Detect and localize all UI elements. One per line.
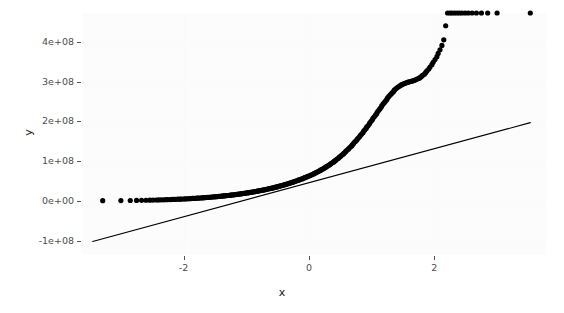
x-tick-label: -2 bbox=[154, 262, 214, 273]
x-tick-label: 0 bbox=[279, 262, 339, 273]
x-tick-mark bbox=[434, 256, 435, 260]
y-tick-label: 1e+08 bbox=[42, 156, 74, 166]
y-tick-label: -1e+08 bbox=[39, 236, 74, 246]
x-axis-title: x bbox=[0, 286, 564, 299]
y-tick-label: 4e+08 bbox=[42, 37, 74, 47]
y-tick-mark bbox=[77, 82, 81, 83]
y-tick-label: 3e+08 bbox=[42, 77, 74, 87]
scatter-point bbox=[474, 10, 479, 15]
qq-reference-line bbox=[93, 123, 531, 242]
qq-plot-figure: y -1e+080e+001e+082e+083e+084e+08 -202 x bbox=[0, 0, 564, 313]
scatter-point bbox=[485, 10, 490, 15]
scatter-point bbox=[441, 37, 446, 42]
scatter-point bbox=[134, 198, 139, 203]
y-tick-mark bbox=[77, 42, 81, 43]
y-tick-mark bbox=[77, 201, 81, 202]
scatter-point bbox=[439, 43, 444, 48]
y-tick-mark bbox=[77, 241, 81, 242]
y-tick-mark bbox=[77, 161, 81, 162]
scatter-point bbox=[118, 198, 123, 203]
scatter-points bbox=[100, 10, 533, 203]
x-tick-mark bbox=[309, 256, 310, 260]
scatter-point bbox=[494, 10, 499, 15]
x-tick-mark bbox=[184, 256, 185, 260]
scatter-point bbox=[479, 10, 484, 15]
y-tick-mark bbox=[77, 121, 81, 122]
x-tick-label: 2 bbox=[404, 262, 464, 273]
scatter-point bbox=[100, 198, 105, 203]
y-axis-title: y bbox=[22, 121, 35, 145]
scatter-point bbox=[443, 23, 448, 28]
y-tick-label: 2e+08 bbox=[42, 116, 74, 126]
y-tick-label: 0e+00 bbox=[42, 196, 74, 206]
scatter-point bbox=[128, 198, 133, 203]
data-layer bbox=[82, 13, 546, 255]
scatter-point bbox=[528, 10, 533, 15]
plot-panel bbox=[82, 13, 546, 255]
